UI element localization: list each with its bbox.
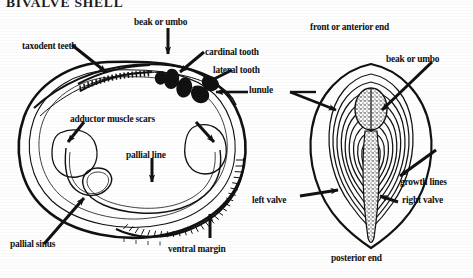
label-beak-or-umbo: beak or umbo [134, 18, 187, 28]
label-growth-lines: growth lines [400, 178, 447, 188]
label-beak-or-umbo-right: beak or umbo [386, 55, 439, 65]
label-lunule: lunule [249, 86, 273, 96]
left-valve-interior-drawing [19, 28, 248, 246]
label-pallial-line: pallial line [126, 151, 166, 161]
label-right-valve: right valve [402, 196, 443, 206]
label-taxodent-teeth: taxodent teeth [22, 42, 76, 52]
bivalve-shell-figure: BIVALVE SHELL [0, 0, 473, 278]
right-valve-exterior-drawing [290, 62, 436, 248]
label-front-or-anterior-end: front or anterior end [310, 23, 389, 33]
label-pallial-sinus: pallial sinus [10, 240, 55, 250]
label-ventral-margin: ventral margin [168, 245, 226, 255]
label-posterior-end: posterior end [331, 254, 382, 264]
label-cardinal-tooth: cardinal tooth [205, 48, 259, 58]
label-lateral-tooth: lateral tooth [213, 66, 260, 76]
label-adductor-muscle-scars: adductor muscle scars [70, 115, 155, 125]
label-left-valve: left valve [252, 196, 286, 206]
